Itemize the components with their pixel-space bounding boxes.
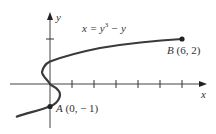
point-a-marker — [47, 104, 52, 109]
point-b-marker — [179, 36, 184, 41]
equation-rhs: − y — [108, 22, 126, 34]
point-b-label: B (6, 2) — [167, 44, 201, 57]
equation-lhs: x = y — [81, 22, 105, 34]
point-a-label: A (0, − 1) — [55, 102, 99, 115]
x-axis-arrow-icon — [199, 81, 207, 87]
point-b-coords: (6, 2) — [174, 44, 201, 57]
x-axis-label: x — [200, 88, 206, 100]
graph-figure: x y x = y3 − y A (0, − 1) B (6, 2) — [0, 0, 216, 134]
y-axis-label: y — [55, 11, 61, 23]
point-a-coords: (0, − 1) — [63, 102, 99, 115]
equation-label: x = y3 − y — [81, 21, 126, 34]
x-axis: x — [10, 80, 207, 100]
curve-x-equals-y-cubed-minus-y — [17, 39, 182, 117]
y-axis-arrow-icon — [47, 12, 53, 20]
